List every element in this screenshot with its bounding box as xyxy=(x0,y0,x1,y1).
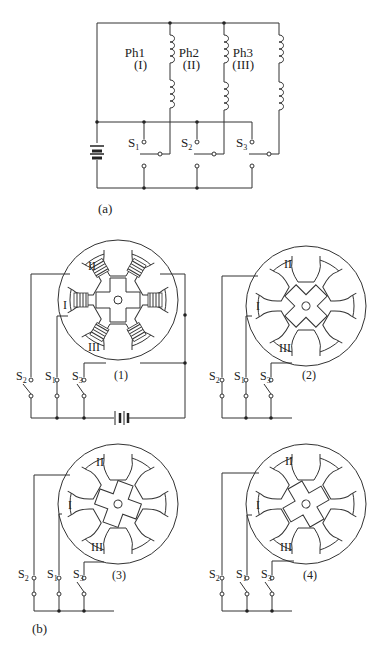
coil-icon xyxy=(279,35,284,63)
step-1-label: (1) xyxy=(114,368,128,382)
svg-text:S3: S3 xyxy=(260,369,271,385)
panel-a-circuit: Ph1 (I) S1 Ph2 (II) S2 xyxy=(90,21,284,216)
coil-icon xyxy=(279,82,284,110)
svg-text:I: I xyxy=(256,299,260,313)
motor-step-3 xyxy=(58,444,178,564)
svg-text:III: III xyxy=(280,540,292,554)
panel-b-label: (b) xyxy=(32,621,47,636)
phase-1-branch: Ph1 (I) S1 xyxy=(125,23,175,188)
svg-text:III: III xyxy=(279,341,291,355)
switch-s1-label: S1 xyxy=(128,135,139,152)
phase-1-roman: (I) xyxy=(134,57,147,72)
svg-text:S2: S2 xyxy=(16,369,27,385)
svg-text:(2): (2) xyxy=(302,368,316,382)
svg-text:I: I xyxy=(256,498,260,512)
coil-icon xyxy=(224,82,229,110)
svg-text:I: I xyxy=(68,498,72,512)
motor-step-1 xyxy=(58,240,178,360)
pole-label-iii: III xyxy=(88,340,100,354)
step-3: II I III S2 S1 S3 (3) (b) xyxy=(18,444,178,636)
svg-text:S3: S3 xyxy=(261,567,272,583)
coil-icon xyxy=(170,35,175,63)
svg-text:S2: S2 xyxy=(209,369,220,385)
switches-step-1: S2 S1 S3 xyxy=(16,369,155,425)
battery-icon xyxy=(90,146,104,158)
svg-text:S3: S3 xyxy=(73,567,84,583)
panel-a-label: (a) xyxy=(98,201,112,216)
pole-label-i: I xyxy=(63,298,67,312)
svg-text:(4): (4) xyxy=(303,568,317,582)
stepper-motor-diagram: Ph1 (I) S1 Ph2 (II) S2 xyxy=(0,0,382,659)
step-1: II I III S2 S1 xyxy=(16,240,187,425)
motor-step-2 xyxy=(246,246,366,366)
svg-text:III: III xyxy=(91,540,103,554)
step-2: II I III S2 S1 S3 (2) xyxy=(209,246,366,420)
phase-3-branch: Ph3 (III) S3 xyxy=(232,23,283,188)
svg-text:S3: S3 xyxy=(72,369,83,385)
switch-s2-label: S2 xyxy=(181,135,192,152)
svg-text:S2: S2 xyxy=(18,567,29,583)
phase-2-roman: (II) xyxy=(183,57,200,72)
switch-s3-label: S3 xyxy=(236,135,247,152)
phase-3-roman: (III) xyxy=(232,57,254,72)
svg-text:S1: S1 xyxy=(47,567,58,583)
svg-text:II: II xyxy=(96,455,104,469)
coil-icon xyxy=(224,35,229,63)
battery-icon xyxy=(115,411,128,425)
svg-text:II: II xyxy=(285,454,293,468)
step-4: II I III S2 S1 S3 (4) xyxy=(209,444,366,613)
pole-label-ii: II xyxy=(88,259,96,273)
svg-text:(3): (3) xyxy=(112,568,126,582)
coil-icon xyxy=(170,80,175,108)
svg-text:II: II xyxy=(284,257,292,271)
svg-text:S1: S1 xyxy=(234,369,245,385)
svg-text:S1: S1 xyxy=(45,369,56,385)
phase-2-branch: Ph2 (II) S2 xyxy=(179,23,229,188)
motor-step-4 xyxy=(246,444,366,564)
svg-text:S1: S1 xyxy=(236,567,247,583)
svg-text:S2: S2 xyxy=(209,567,220,583)
